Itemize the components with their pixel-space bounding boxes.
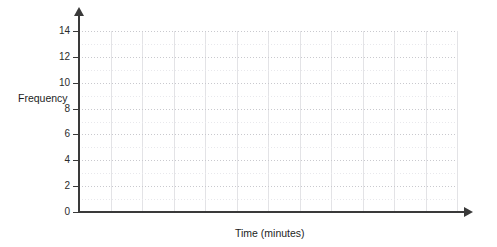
y-axis-tick-mark: [73, 160, 79, 161]
grid-line-horizontal-major: [79, 31, 457, 32]
y-axis-tick-label: 10: [48, 78, 70, 88]
chart-screenshot: 02468101214 Frequency Time (minutes): [0, 0, 497, 247]
grid-line-horizontal-minor: [79, 122, 457, 123]
y-axis-tick-mark: [73, 186, 79, 187]
x-axis-title: Time (minutes): [235, 227, 305, 239]
y-axis-tick-label: 2: [48, 181, 70, 191]
y-axis-title: Frequency: [18, 92, 68, 104]
plot-area: [79, 31, 457, 212]
y-axis-tick-mark: [73, 134, 79, 135]
grid-line-horizontal-major: [79, 57, 457, 58]
y-axis-tick-labels: 02468101214: [46, 0, 70, 247]
grid-line-horizontal-major: [79, 186, 457, 187]
grid-line-horizontal-minor: [79, 173, 457, 174]
grid-line-horizontal-major: [79, 83, 457, 84]
grid-line-horizontal-minor: [79, 70, 457, 71]
grid-line-horizontal-minor: [79, 44, 457, 45]
grid-line-vertical: [457, 31, 458, 212]
y-axis-tick-label: 6: [48, 129, 70, 139]
grid-line-horizontal-major: [79, 160, 457, 161]
y-axis-tick-mark: [73, 212, 79, 213]
y-axis-up-arrow-icon: [74, 7, 84, 16]
y-axis-tick-label: 4: [48, 155, 70, 165]
y-axis-tick-mark: [73, 57, 79, 58]
y-axis-tick-label: 12: [48, 52, 70, 62]
grid-line-horizontal-minor: [79, 199, 457, 200]
grid-line-horizontal-major: [79, 109, 457, 110]
y-axis-line: [78, 14, 80, 213]
y-axis-tick-mark: [73, 31, 79, 32]
grid-line-horizontal-minor: [79, 147, 457, 148]
grid-line-horizontal-major: [79, 134, 457, 135]
y-axis-tick-label: 0: [48, 207, 70, 217]
y-axis-tick-label: 14: [48, 26, 70, 36]
x-axis-line: [79, 211, 467, 213]
y-axis-tick-mark: [73, 83, 79, 84]
grid-line-horizontal-minor: [79, 96, 457, 97]
x-axis-right-arrow-icon: [464, 207, 473, 217]
y-axis-tick-mark: [73, 109, 79, 110]
y-axis-tick-label: 8: [48, 104, 70, 114]
